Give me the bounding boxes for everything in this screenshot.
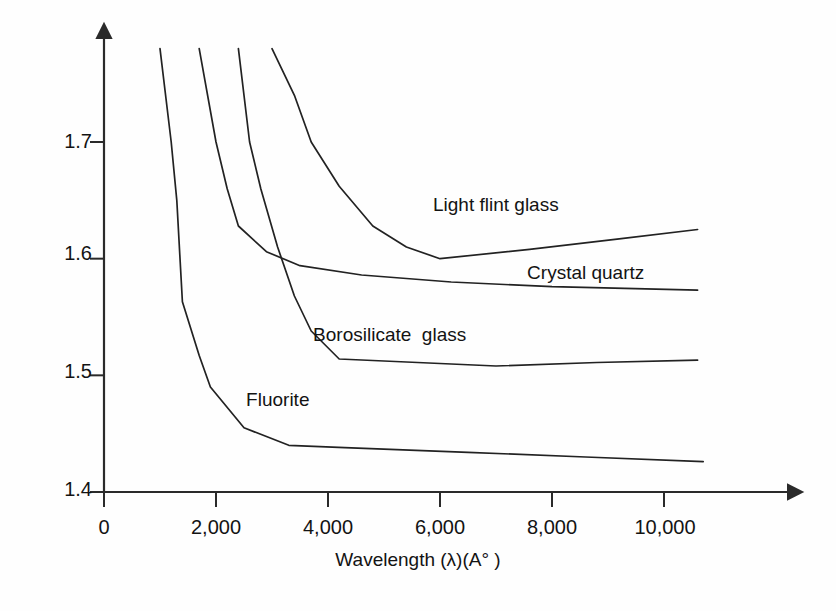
y-tick-label-1.7: 1.7 [36,130,92,153]
x-axis-title: Wavelength (λ)(A° ) [268,549,568,571]
series-label-borosilicate-glass: Borosilicate glass [313,324,466,346]
figure-dispersion-chart: 1.7 1.6 1.5 1.4 0 2,000 4,000 6,000 8,00… [0,0,836,611]
series-label-crystal-quartz: Crystal quartz [527,262,644,284]
series-label-fluorite: Fluorite [246,389,309,411]
x-tick-label-8000: 8,000 [502,516,602,539]
x-tick-label-10000: 10,000 [608,516,722,539]
x-tick-label-6000: 6,000 [390,516,490,539]
x-tick-label-2000: 2,000 [166,516,266,539]
series-lines [160,49,703,462]
y-tick-label-1.6: 1.6 [36,242,92,265]
series-line-crystal-quartz [199,49,697,291]
series-line-light-flint-glass [272,49,698,259]
y-axis-ticks [90,142,105,492]
series-label-light-flint-glass: Light flint glass [433,194,559,216]
y-tick-label-1.4: 1.4 [36,478,92,501]
y-tick-label-1.5: 1.5 [36,360,92,383]
x-tick-label-0: 0 [74,516,134,539]
x-tick-label-4000: 4,000 [278,516,378,539]
